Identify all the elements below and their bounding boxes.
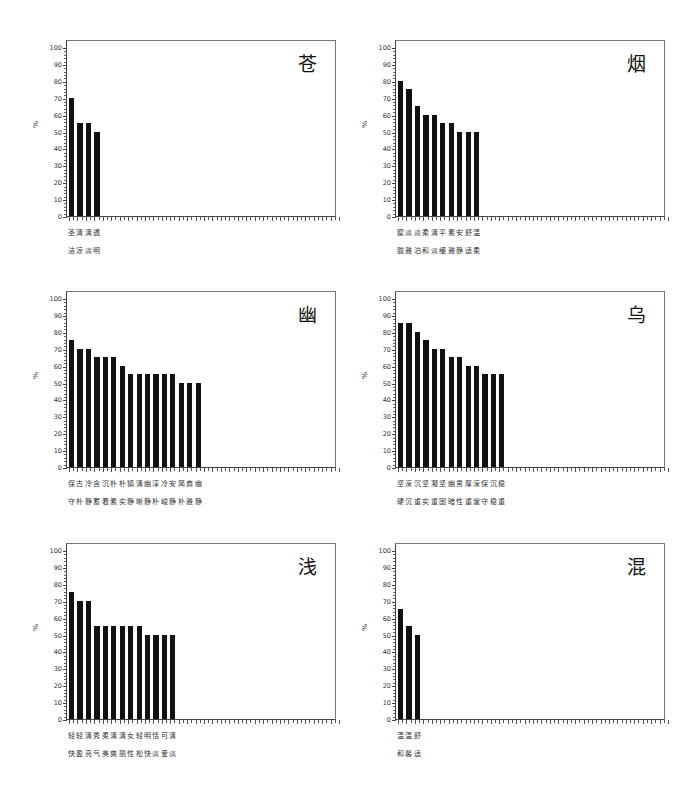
- bar: [474, 366, 479, 467]
- y-tick-label: 10: [30, 447, 62, 455]
- y-tick-label: 20: [30, 430, 62, 438]
- y-tick-label: 50: [30, 632, 62, 640]
- bar: [415, 635, 420, 720]
- y-tick-label: 70: [359, 95, 391, 103]
- y-tick-label: 90: [30, 61, 62, 69]
- y-tick-label: 90: [30, 312, 62, 320]
- bar: [415, 332, 420, 467]
- y-tick-label: 20: [359, 179, 391, 187]
- y-tick-label: 0: [30, 213, 62, 221]
- y-axis-label: %: [360, 372, 369, 380]
- y-axis-label: %: [31, 372, 40, 380]
- bar: [474, 132, 479, 217]
- bar: [423, 340, 428, 467]
- y-tick-label: 80: [30, 329, 62, 337]
- x-category-labels-row-2: 洁凉淡明: [68, 245, 102, 255]
- y-tick-label: 90: [359, 564, 391, 572]
- y-tick-label: 50: [359, 380, 391, 388]
- y-tick-label: 70: [30, 346, 62, 354]
- y-tick-label: 50: [30, 380, 62, 388]
- y-tick-label: 60: [30, 363, 62, 371]
- x-axis-ticks: [66, 720, 336, 725]
- y-tick-label: 0: [30, 716, 62, 724]
- bar: [432, 115, 437, 216]
- x-axis-ticks: [66, 468, 336, 473]
- bar: [398, 609, 403, 719]
- bar: [69, 592, 74, 719]
- y-axis-label: %: [360, 121, 369, 129]
- y-tick-label: 80: [30, 78, 62, 86]
- bar: [491, 374, 496, 467]
- y-tick-label: 70: [359, 598, 391, 606]
- y-tick-label: 70: [359, 346, 391, 354]
- bar: [432, 349, 437, 467]
- bar: [179, 383, 184, 468]
- x-category-labels-row-1: 朦淡淡柔清平素安舒温: [397, 227, 481, 237]
- y-tick-label: 0: [359, 716, 391, 724]
- y-tick-label: 100: [359, 295, 391, 303]
- bar: [398, 81, 403, 216]
- bar: [120, 626, 125, 719]
- bar: [111, 357, 116, 467]
- y-tick-label: 20: [30, 682, 62, 690]
- plot-area: 浅: [66, 543, 336, 720]
- bar: [406, 323, 411, 467]
- bar: [94, 626, 99, 719]
- y-tick-label: 100: [30, 295, 62, 303]
- bar: [423, 115, 428, 216]
- x-axis-ticks: [66, 217, 336, 222]
- x-axis-ticks: [395, 720, 665, 725]
- bar: [77, 601, 82, 719]
- bar: [162, 374, 167, 467]
- y-tick-label: 60: [359, 615, 391, 623]
- bar: [187, 383, 192, 468]
- bar: [162, 635, 167, 720]
- y-tick-label: 30: [359, 413, 391, 421]
- bar: [466, 132, 471, 217]
- bar: [440, 123, 445, 216]
- chart-panel-3: %0102030405060708090100幽保古冷含沉朴朴镇清幽淳冷安简典幽…: [30, 291, 330, 531]
- bar: [145, 374, 150, 467]
- y-tick-label: 90: [359, 312, 391, 320]
- bar: [406, 626, 411, 719]
- y-tick-label: 10: [359, 196, 391, 204]
- bar: [103, 357, 108, 467]
- y-tick-label: 0: [359, 464, 391, 472]
- bar: [499, 374, 504, 467]
- y-tick-label: 50: [359, 632, 391, 640]
- plot-area: 乌: [395, 291, 665, 468]
- y-tick-label: 100: [359, 547, 391, 555]
- y-tick-label: 60: [30, 112, 62, 120]
- y-tick-label: 40: [30, 145, 62, 153]
- x-axis-ticks: [395, 217, 665, 222]
- chart-panel-2: %0102030405060708090100烟朦淡淡柔清平素安舒温胧雅泊和淡缓…: [359, 40, 659, 280]
- y-tick-label: 90: [359, 61, 391, 69]
- bar: [86, 601, 91, 719]
- chart-title: 幽: [298, 300, 317, 327]
- y-tick-label: 0: [30, 464, 62, 472]
- y-tick-label: 30: [30, 162, 62, 170]
- bar: [69, 340, 74, 467]
- bar: [86, 349, 91, 467]
- y-tick-label: 40: [359, 396, 391, 404]
- bar: [120, 366, 125, 467]
- bar: [457, 132, 462, 217]
- bar: [86, 123, 91, 216]
- y-tick-label: 60: [359, 363, 391, 371]
- bar: [440, 349, 445, 467]
- y-tick-label: 10: [30, 699, 62, 707]
- y-tick-label: 100: [30, 44, 62, 52]
- x-category-labels-row-1: 坚深沉坚凝坚幽男厚深保沉稳: [397, 478, 507, 488]
- chart-panel-1: %0102030405060708090100苍圣清清透洁凉淡明: [30, 40, 330, 280]
- y-tick-label: 40: [359, 145, 391, 153]
- y-tick-label: 40: [30, 648, 62, 656]
- bar: [449, 357, 454, 467]
- bar: [196, 383, 201, 468]
- y-tick-label: 80: [30, 581, 62, 589]
- y-axis-label: %: [31, 121, 40, 129]
- bar: [153, 635, 158, 720]
- y-tick-label: 30: [359, 162, 391, 170]
- bar: [137, 626, 142, 719]
- y-tick-label: 80: [359, 581, 391, 589]
- y-tick-label: 70: [30, 598, 62, 606]
